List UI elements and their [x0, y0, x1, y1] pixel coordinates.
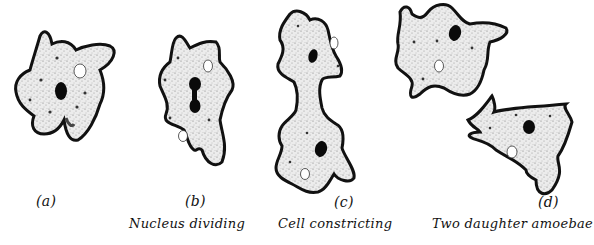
diagram-artwork	[0, 0, 594, 245]
amoeba-b	[159, 36, 233, 165]
stage-label-c: (c)	[334, 194, 354, 210]
nucleus-d2	[523, 120, 535, 134]
vacuole-b1	[204, 60, 213, 72]
caption-c: Cell constricting	[278, 216, 392, 231]
amoeba-binary-fission-diagram: (a) (b) Nucleus dividing (c) Cell constr…	[0, 0, 594, 245]
caption-d: Two daughter amoebae	[432, 216, 593, 231]
stage-label-d: (d)	[538, 194, 559, 210]
amoeba-d-top	[396, 5, 507, 98]
nucleus-b-bottom	[190, 99, 201, 113]
vacuole-d2	[507, 146, 517, 158]
vacuole-d1	[435, 60, 444, 72]
vacuole-c1	[330, 37, 338, 49]
stage-label-a: (a)	[36, 193, 56, 209]
amoeba-d-bottom	[468, 96, 572, 194]
vacuole-b2	[179, 131, 188, 142]
amoeba-c	[276, 11, 354, 192]
nucleus-a	[55, 82, 67, 100]
stage-label-b: (b)	[185, 193, 206, 209]
vacuole-a	[74, 64, 86, 78]
amoeba-a	[16, 32, 114, 140]
vacuole-c2	[301, 169, 310, 180]
caption-b: Nucleus dividing	[129, 216, 245, 231]
